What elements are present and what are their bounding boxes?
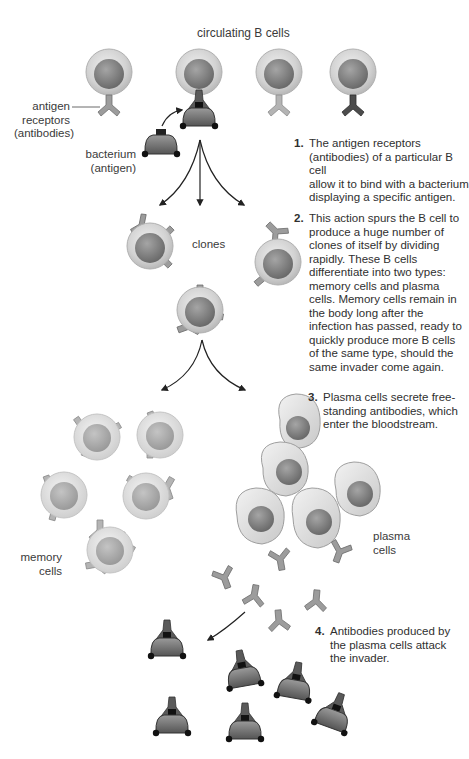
b-cell-4 xyxy=(330,49,376,116)
memory-cell-4 xyxy=(123,468,182,519)
memory-cells-label: memory cells xyxy=(20,551,62,578)
step-4: 4. Antibodies produced by the plasma cel… xyxy=(330,625,468,666)
step-3: 3. Plasma cells secrete free- standing a… xyxy=(323,391,468,432)
step-1: 1. The antigen receptors (antibodies) of… xyxy=(309,137,469,205)
bacterium-label: bacterium (antigen) xyxy=(80,148,136,175)
b-cell-3 xyxy=(256,49,302,116)
plasma-cells-label: plasma cells xyxy=(373,530,410,557)
free-antibodies xyxy=(210,539,353,632)
clone-cell-1 xyxy=(127,212,180,274)
b-cell-1 xyxy=(86,49,132,116)
memory-cell-1 xyxy=(67,412,126,460)
antigen-receptors-label: antigen receptors (antibodies) xyxy=(14,100,70,141)
memory-cell-5 xyxy=(84,520,139,577)
attack-arrow xyxy=(208,612,245,640)
attacked-bacteria xyxy=(148,620,360,742)
b-cell-2-bound xyxy=(176,49,222,129)
clone-cell-3 xyxy=(174,285,225,340)
memory-cell-2 xyxy=(137,408,183,458)
bacterium-icon xyxy=(142,129,180,157)
differentiation-arrows xyxy=(162,340,245,390)
diagram-title: circulating B cells xyxy=(197,27,290,41)
clones-label: clones xyxy=(192,238,225,252)
bind-arrow xyxy=(162,110,182,126)
clone-cell-2 xyxy=(249,216,301,292)
memory-cell-3 xyxy=(36,472,87,523)
step-2: 2. This action spurs the B cell to produ… xyxy=(309,212,469,374)
